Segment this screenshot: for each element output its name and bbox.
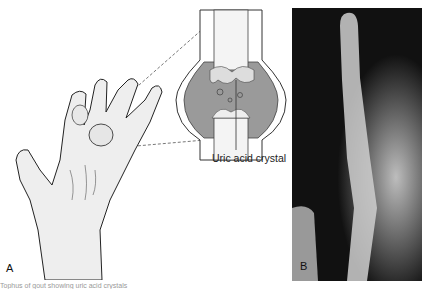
- figure-caption: Tophus of gout showing uric acid crystal…: [0, 282, 127, 289]
- hand-illustration: [0, 0, 290, 280]
- joint-cross-section-inset: [176, 10, 286, 160]
- panel-b-xray: [292, 8, 422, 281]
- figure: Uric acid crystal A B Tophus of gout sho…: [0, 0, 422, 289]
- panel-label-a: A: [6, 262, 13, 274]
- uric-acid-crystal-label: Uric acid crystal: [212, 152, 286, 164]
- finger-xray-image: [292, 8, 422, 281]
- panel-label-b: B: [300, 260, 307, 272]
- panel-a-illustration: Uric acid crystal: [0, 0, 290, 280]
